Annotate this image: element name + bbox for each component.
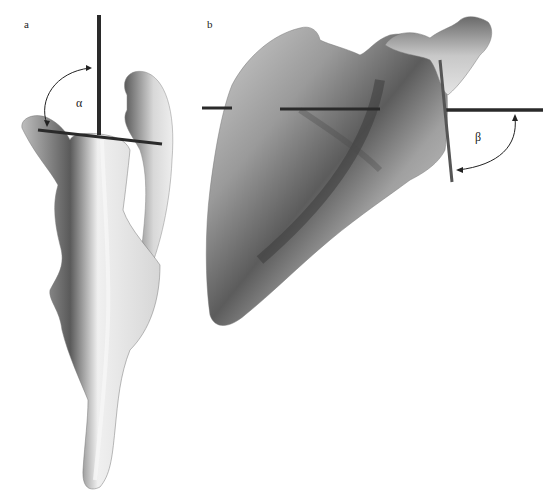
panel-label-b: b	[207, 18, 213, 30]
scientific-figure: a b α β	[0, 0, 559, 501]
angle-label-alpha: α	[76, 96, 82, 111]
angle-arrow-beta	[456, 114, 518, 173]
panel-label-a: a	[24, 18, 29, 30]
vertical-rod-a	[97, 15, 101, 135]
angle-arrow-alpha	[44, 65, 92, 127]
figure-canvas	[0, 0, 559, 501]
angle-label-beta: β	[475, 130, 481, 145]
panel-b-bone	[206, 17, 491, 326]
